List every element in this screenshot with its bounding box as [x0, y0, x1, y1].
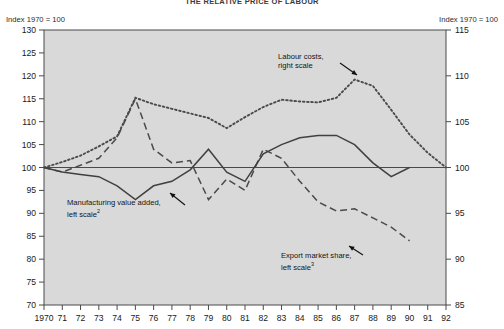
annotation-manufacturing-line2-text: left scale [67, 210, 97, 219]
left-axis-tick-label: 130 [22, 25, 37, 35]
annotation-manufacturing-value-added: Manufacturing value added, left scale2 [67, 198, 161, 219]
x-axis-tick-label: 84 [295, 313, 305, 323]
x-axis-tick-label: 76 [149, 313, 159, 323]
left-axis-tick-label: 90 [26, 208, 36, 218]
x-axis-ticks-group [44, 305, 446, 310]
left-axis-tick-label: 95 [26, 185, 36, 195]
left-axis-tick-label: 70 [26, 300, 36, 310]
x-axis-tick-label: 81 [240, 313, 250, 323]
plot-area-wrapper: 707580859095100105110115120125130 859095… [0, 0, 504, 329]
x-axis-tick-label: 82 [258, 313, 268, 323]
x-axis-tick-label: 85 [313, 313, 323, 323]
right-axis-tick-label: 95 [455, 208, 465, 218]
left-axis-tick-labels-group: 707580859095100105110115120125130 [22, 25, 37, 310]
annotation-export-market-share: Export market share, left scale3 [281, 251, 351, 272]
annotation-manufacturing-line1: Manufacturing value added, [67, 198, 161, 207]
x-axis-tick-label: 77 [167, 313, 177, 323]
right-axis-tick-label: 110 [455, 71, 469, 81]
left-axis-tick-label: 110 [22, 117, 36, 127]
x-axis-tick-label: 88 [368, 313, 378, 323]
annotation-export-line1: Export market share, [281, 251, 351, 260]
x-axis-tick-label: 71 [57, 313, 67, 323]
x-axis-tick-label: 80 [222, 313, 232, 323]
right-axis-tick-label: 90 [455, 254, 465, 264]
x-axis-tick-label: 92 [441, 313, 451, 323]
right-axis-tick-label: 105 [455, 117, 470, 127]
left-axis-tick-label: 80 [26, 254, 36, 264]
x-axis-tick-label: 86 [332, 313, 342, 323]
annotation-export-line2-text: left scale [281, 263, 311, 272]
left-axis-tick-label: 115 [22, 94, 36, 104]
left-axis-tick-label: 120 [22, 71, 37, 81]
annotation-export-line2: left scale3 [281, 260, 351, 272]
right-axis-tick-label: 100 [455, 163, 470, 173]
x-axis-tick-label: 89 [386, 313, 396, 323]
x-axis-tick-label: 73 [94, 313, 104, 323]
annotation-manufacturing-footnote: 2 [97, 208, 100, 214]
right-axis-tick-label: 115 [455, 25, 469, 35]
annotation-manufacturing-line2: left scale2 [67, 207, 161, 219]
figure-root: THE RELATIVE PRICE OF LABOUR Index 1970 … [0, 0, 504, 329]
annotation-labour-costs-line2: right scale [278, 61, 324, 70]
x-axis-tick-label: 91 [423, 313, 433, 323]
left-axis-tick-label: 100 [22, 163, 37, 173]
x-axis-tick-label: 1970 [34, 313, 53, 323]
left-axis-tick-label: 105 [22, 140, 37, 150]
x-axis-tick-label: 72 [76, 313, 86, 323]
left-axis-tick-label: 75 [26, 277, 36, 287]
right-axis-tick-label: 85 [455, 300, 465, 310]
annotation-labour-costs-line1: Labour costs, [278, 52, 324, 61]
x-axis-tick-label: 83 [277, 313, 287, 323]
annotation-export-footnote: 3 [311, 261, 314, 267]
annotation-labour-costs: Labour costs, right scale [278, 52, 324, 71]
right-axis-tick-labels-group: 859095100105110115 [455, 25, 470, 310]
left-axis-tick-label: 85 [26, 231, 36, 241]
x-axis-tick-label: 87 [350, 313, 360, 323]
left-axis-tick-label: 125 [22, 48, 37, 58]
x-axis-tick-labels-group: 1970717273747576777879808182838485868788… [34, 313, 451, 323]
x-axis-tick-label: 79 [204, 313, 214, 323]
x-axis-tick-label: 74 [112, 313, 122, 323]
x-axis-tick-label: 75 [131, 313, 141, 323]
x-axis-tick-label: 90 [405, 313, 415, 323]
chart-svg: 707580859095100105110115120125130 859095… [0, 0, 504, 329]
x-axis-tick-label: 78 [185, 313, 195, 323]
